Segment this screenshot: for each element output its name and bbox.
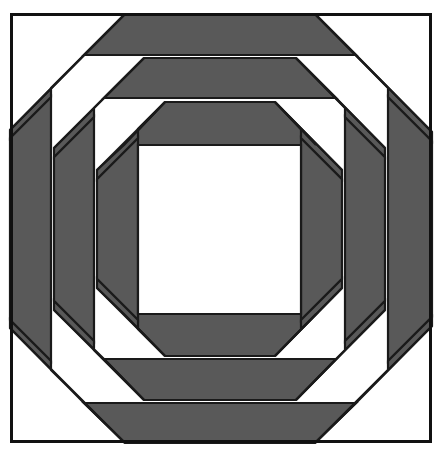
- left-strip-1: [10, 97, 51, 361]
- right-strip-1: [388, 97, 432, 361]
- center-patch: [138, 145, 301, 314]
- bottom-strip-1: [84, 403, 356, 443]
- quilt-canvas: [0, 0, 438, 450]
- top-strip-1: [84, 14, 356, 55]
- quilt-block-artwork: [0, 0, 438, 450]
